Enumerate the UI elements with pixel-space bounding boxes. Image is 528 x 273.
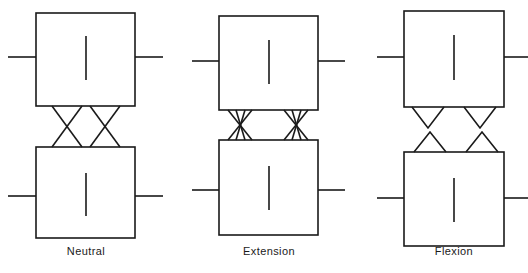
panel-label-flexion: Flexion [435, 245, 473, 257]
panel-flexion [377, 11, 528, 246]
extension-facet-crossing-left [228, 110, 252, 140]
flexion-upper-facet-v-left [412, 107, 444, 128]
neutral-facet-crossing-left [52, 106, 82, 147]
flexion-lower-facet-lambda-left [414, 132, 446, 152]
flexion-upper-facet-v-right [464, 107, 496, 128]
flexion-lower-facet-lambda-right [466, 132, 498, 152]
figure-root: Neutral Extension Flexion [0, 0, 528, 273]
panel-neutral [8, 13, 163, 238]
panel-label-neutral: Neutral [67, 245, 105, 257]
spinal-motion-diagram [0, 0, 528, 273]
panel-label-extension: Extension [243, 245, 295, 257]
neutral-facet-crossing-right [90, 106, 120, 147]
panel-extension [192, 16, 345, 235]
extension-facet-crossing-right [284, 110, 308, 140]
